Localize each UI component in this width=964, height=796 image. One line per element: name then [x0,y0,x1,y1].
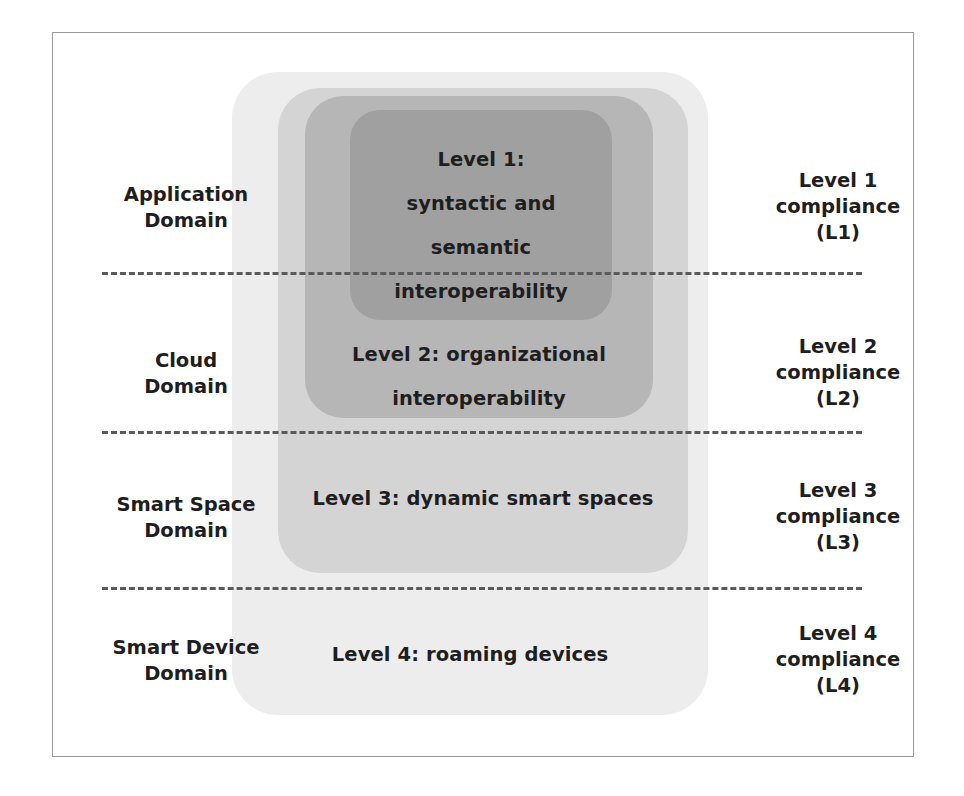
domain-label-smart-space-line-1: Smart Space [78,492,294,518]
compliance-label-l3-line-2: compliance [742,504,934,530]
compliance-label-l1-line-3: (L1) [742,220,934,246]
domain-label-cloud: Cloud Domain [78,348,294,400]
compliance-label-l2-line-3: (L2) [742,386,934,412]
compliance-label-l4-line-1: Level 4 [742,621,934,647]
compliance-label-l2-line-2: compliance [742,360,934,386]
compliance-label-l4-line-3: (L4) [742,673,934,699]
compliance-label-l3-line-3: (L3) [742,530,934,556]
layer-level-1-line-4: interoperability [350,270,612,314]
domain-label-smart-space-line-2: Domain [78,518,294,544]
divider-smartspace-smartdevice [102,587,862,590]
domain-label-smart-space: Smart Space Domain [78,492,294,544]
domain-label-application: Application Domain [78,182,294,234]
compliance-label-l3: Level 3 compliance (L3) [742,478,934,556]
layer-level-1-line-1: Level 1: [350,138,612,182]
layer-level-1-line-2: syntactic and [350,182,612,226]
compliance-label-l1-line-2: compliance [742,194,934,220]
layer-level-3-label: Level 3: dynamic smart spaces [278,484,688,514]
layer-level-2-line-2: interoperability [305,377,653,421]
compliance-label-l4: Level 4 compliance (L4) [742,621,934,699]
domain-label-cloud-line-2: Domain [78,374,294,400]
layer-level-4-label: Level 4: roaming devices [232,640,708,670]
domain-label-application-line-2: Domain [78,208,294,234]
compliance-label-l2: Level 2 compliance (L2) [742,334,934,412]
layer-level-3-line-1: Level 3: dynamic smart spaces [278,484,688,514]
diagram-canvas: Level 1: syntactic and semantic interope… [0,0,964,796]
domain-label-smart-device-line-1: Smart Device [78,635,294,661]
compliance-label-l1-line-1: Level 1 [742,168,934,194]
layer-level-4-line-1: Level 4: roaming devices [232,640,708,670]
compliance-label-l2-line-1: Level 2 [742,334,934,360]
compliance-label-l1: Level 1 compliance (L1) [742,168,934,246]
compliance-label-l3-line-1: Level 3 [742,478,934,504]
layer-level-2-line-1: Level 2: organizational [305,333,653,377]
domain-label-smart-device-line-2: Domain [78,661,294,687]
layer-level-1-label: Level 1: syntactic and semantic interope… [350,138,612,314]
divider-cloud-smartspace [102,431,862,434]
layer-level-1-line-3: semantic [350,226,612,270]
layer-level-2-label: Level 2: organizational interoperability [305,333,653,421]
domain-label-application-line-1: Application [78,182,294,208]
domain-label-cloud-line-1: Cloud [78,348,294,374]
compliance-label-l4-line-2: compliance [742,647,934,673]
domain-label-smart-device: Smart Device Domain [78,635,294,687]
